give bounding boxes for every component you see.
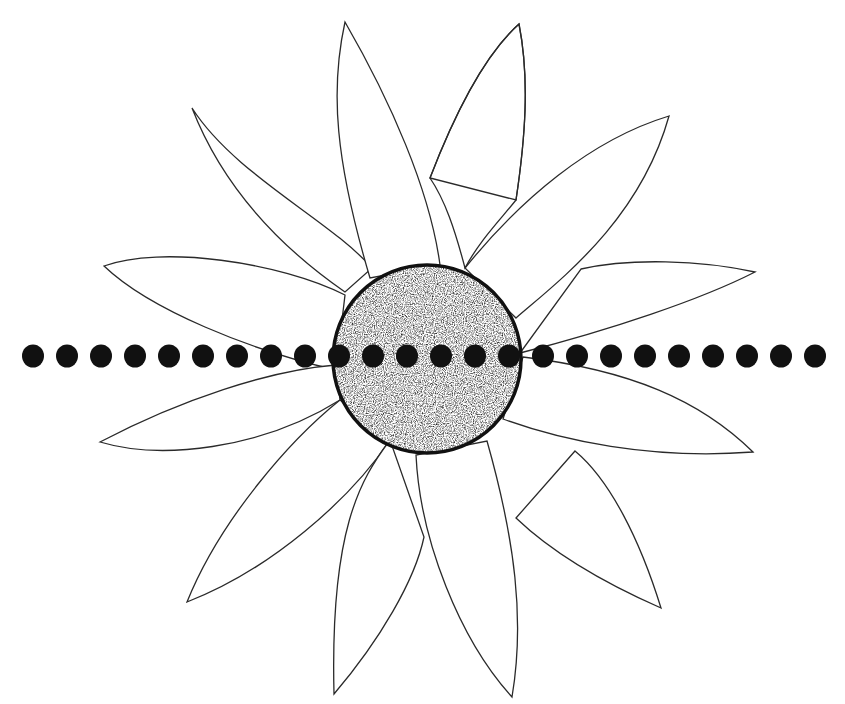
dot <box>498 345 520 368</box>
dot <box>600 345 622 368</box>
petal-bottom-right <box>416 441 518 697</box>
dot <box>804 345 826 368</box>
petal-right-lower <box>503 357 753 454</box>
dot <box>702 345 724 368</box>
dot <box>124 345 146 368</box>
dot <box>532 345 554 368</box>
dot <box>226 345 248 368</box>
dot <box>294 345 316 368</box>
dot <box>22 345 44 368</box>
dot <box>770 345 792 368</box>
dot <box>362 345 384 368</box>
petal-lower-right <box>516 451 661 608</box>
dot <box>736 345 758 368</box>
center-disc <box>333 265 521 453</box>
petal-top-left <box>337 22 440 278</box>
dot <box>90 345 112 368</box>
dot <box>634 345 656 368</box>
dot <box>668 345 690 368</box>
dot <box>566 345 588 368</box>
dot <box>192 345 214 368</box>
dot <box>430 345 452 368</box>
dot <box>464 345 486 368</box>
dot <box>396 345 418 368</box>
dot <box>158 345 180 368</box>
flower-drawing <box>0 0 845 704</box>
dot <box>328 345 350 368</box>
dot <box>56 345 78 368</box>
dot <box>260 345 282 368</box>
petal-top-right <box>430 24 525 200</box>
